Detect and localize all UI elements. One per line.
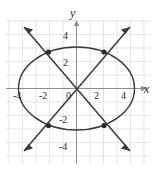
x-tick-label-neg4: -4: [13, 90, 21, 101]
x-axis-label: x: [143, 82, 150, 96]
x-tick-label-4: 4: [121, 90, 126, 101]
x-tick-label-2: 2: [94, 90, 99, 101]
coordinate-plane-svg: y x -4 -2 0 2 4 4 2 -2 -4: [0, 0, 154, 170]
grid-lines: [6, 20, 150, 164]
point-bottom-left: [46, 123, 51, 128]
y-tick-label-2: 2: [63, 57, 68, 68]
y-tick-label-neg2: -2: [59, 114, 67, 125]
point-bottom-right: [101, 123, 106, 128]
arrow-up-right: [121, 27, 130, 34]
point-top-right: [101, 49, 106, 54]
x-tick-label-neg2: -2: [39, 90, 47, 101]
arrow-down-right: [121, 144, 130, 151]
arrow-down-left: [24, 144, 33, 151]
y-tick-label-4: 4: [63, 30, 68, 41]
graph-figure: y x -4 -2 0 2 4 4 2 -2 -4: [0, 0, 154, 170]
y-axis-label: y: [69, 6, 76, 20]
y-tick-label-neg4: -4: [59, 141, 67, 152]
origin-label: 0: [66, 90, 71, 101]
point-top-left: [46, 49, 51, 54]
arrow-up-left: [24, 27, 33, 34]
